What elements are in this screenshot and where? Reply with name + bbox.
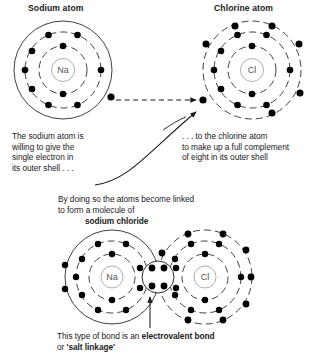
right-annotation-line-1: . . . to the chlorine atom (182, 131, 317, 142)
electron (95, 241, 101, 247)
electron (22, 67, 29, 74)
left-annotation-line-4: its outer shell . . . (12, 163, 137, 174)
left-annotation-line-3: single electron in (12, 152, 137, 163)
electron (203, 41, 210, 48)
electron (243, 301, 250, 308)
right-annotation: . . . to the chlorine atom to make up a … (182, 131, 317, 163)
electron (60, 91, 67, 98)
mol-cl-nucleus-label: Cl (201, 272, 210, 282)
electron (109, 251, 115, 257)
bottom-annotation-line-1: This type of bond is an electrovalent bo… (57, 331, 312, 342)
electron (109, 297, 115, 303)
bottom-annotation: This type of bond is an electrovalent bo… (57, 331, 312, 352)
right-annotation-line-3: of eight in its outer shell (182, 152, 317, 163)
left-annotation-line-1: The sodium atom is (12, 131, 137, 142)
electron (45, 102, 52, 109)
ionic-bonding-diagram: Na Cl (0, 0, 317, 358)
valence-electron (107, 93, 114, 100)
bond-overlap-region (142, 261, 174, 293)
middle-annotation-line-1: By doing so the atoms become linked (58, 194, 293, 205)
left-annotation: The sodium atom is willing to give the s… (12, 131, 137, 173)
sodium-atom-model: Na (14, 21, 115, 119)
electron (79, 292, 85, 298)
electron (137, 285, 143, 291)
bottom-note-line2-bold: 'salt linkage' (67, 342, 115, 352)
electron (234, 32, 241, 39)
electron (60, 43, 67, 50)
na-nucleus-label: Na (57, 65, 69, 75)
electron (79, 256, 85, 262)
electron (216, 307, 222, 313)
electron (123, 241, 129, 247)
electron (173, 285, 179, 291)
electron (249, 91, 256, 98)
chlorine-atom-model: Cl (199, 21, 303, 119)
shared-electron (149, 265, 156, 272)
electron (74, 102, 81, 109)
electron (45, 32, 52, 39)
shared-electron (161, 265, 168, 272)
electron (218, 48, 225, 55)
electron (269, 110, 276, 117)
mol-na-nucleus-label: Na (106, 272, 118, 282)
electron-acceptor-site (199, 96, 206, 103)
electron (172, 292, 178, 298)
electron (137, 265, 143, 271)
electron (234, 102, 241, 109)
electron (29, 86, 36, 93)
middle-annotation-line-2: to form a molecule of (58, 205, 293, 216)
electron (220, 231, 227, 238)
bottom-annotation-line-2: or 'salt linkage' (57, 342, 312, 353)
electron (62, 262, 68, 268)
molecule-name-label: sodium chloride (85, 216, 148, 227)
electron (269, 23, 276, 30)
electron (29, 48, 36, 55)
electron (216, 241, 222, 247)
electron (211, 67, 218, 74)
shared-electron (161, 283, 168, 290)
electron (243, 247, 250, 254)
middle-annotation: By doing so the atoms become linked to f… (58, 194, 293, 215)
electron (172, 256, 178, 262)
electron (173, 265, 179, 271)
electron (185, 231, 192, 238)
electron (98, 67, 105, 74)
bottom-note-prefix: This type of bond is an (57, 331, 142, 341)
bottom-note-line2-prefix: or (57, 342, 67, 352)
electron (95, 307, 101, 313)
sodium-chloride-molecule: Na Cl (62, 230, 255, 324)
electron (263, 32, 270, 39)
electron (159, 250, 166, 257)
left-annotation-line-2: willing to give the (12, 142, 137, 153)
electron (218, 86, 225, 93)
electron (220, 317, 227, 324)
electron (249, 43, 256, 50)
electron (188, 307, 194, 313)
bottom-note-bold: electrovalent bond (142, 331, 215, 341)
electron (297, 90, 304, 97)
electron (296, 41, 303, 48)
electron (202, 251, 208, 257)
electron (263, 102, 270, 109)
electron (123, 307, 129, 313)
electron (238, 274, 244, 280)
chlorine-atom-title: Chlorine atom (214, 3, 273, 13)
cl-nucleus-label: Cl (248, 65, 257, 75)
sodium-atom-title: Sodium atom (28, 3, 84, 13)
electron (73, 274, 79, 280)
electron (287, 67, 294, 74)
shared-electron (149, 283, 156, 290)
electron (62, 286, 68, 292)
electron (248, 274, 255, 281)
electron (185, 317, 192, 324)
electron (188, 241, 194, 247)
electron (202, 297, 208, 303)
electron (74, 32, 81, 39)
electron (232, 23, 239, 30)
diagram-canvas: Na Cl (0, 0, 317, 358)
right-annotation-line-2: to make up a full complement (182, 142, 317, 153)
